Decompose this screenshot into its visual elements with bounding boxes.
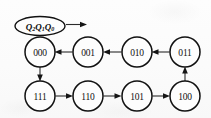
edge-001-to-000 bbox=[55, 49, 73, 55]
state-node-101[interactable]: 101 bbox=[122, 81, 152, 111]
state-diagram-canvas: Q2Q1Q0 000 001 010 011 111 bbox=[0, 0, 211, 118]
edge-100-to-011 bbox=[182, 67, 188, 82]
state-node-001[interactable]: 001 bbox=[73, 37, 103, 67]
state-node-label: 110 bbox=[81, 92, 95, 102]
svg-text:Q2Q1Q0: Q2Q1Q0 bbox=[26, 22, 55, 32]
state-node-label: 101 bbox=[130, 92, 144, 102]
label-q0-sub: 0 bbox=[51, 26, 54, 32]
edge-110-to-101 bbox=[104, 93, 122, 99]
pointer-arrow-icon bbox=[66, 22, 87, 28]
state-diagram-figure: Q2Q1Q0 000 001 010 011 111 bbox=[0, 0, 211, 118]
edge-011-to-010 bbox=[152, 49, 170, 55]
state-node-000[interactable]: 000 bbox=[25, 37, 55, 67]
state-node-label: 001 bbox=[81, 48, 95, 58]
edge-000-to-111 bbox=[37, 67, 43, 82]
state-node-label: 010 bbox=[130, 48, 144, 58]
state-node-010[interactable]: 010 bbox=[122, 37, 152, 67]
state-node-100[interactable]: 100 bbox=[170, 81, 200, 111]
edge-111-to-110 bbox=[56, 93, 74, 99]
state-node-label: 000 bbox=[33, 48, 47, 58]
state-node-110[interactable]: 110 bbox=[73, 81, 103, 111]
state-node-label: 100 bbox=[178, 92, 192, 102]
state-node-111[interactable]: 111 bbox=[25, 81, 55, 111]
state-node-label: 011 bbox=[178, 48, 192, 58]
edge-010-to-001 bbox=[103, 49, 122, 55]
state-register-label: Q2Q1Q0 bbox=[15, 17, 65, 36]
edge-101-to-100 bbox=[153, 93, 171, 99]
state-node-label: 111 bbox=[34, 92, 47, 102]
state-node-011[interactable]: 011 bbox=[170, 37, 200, 67]
